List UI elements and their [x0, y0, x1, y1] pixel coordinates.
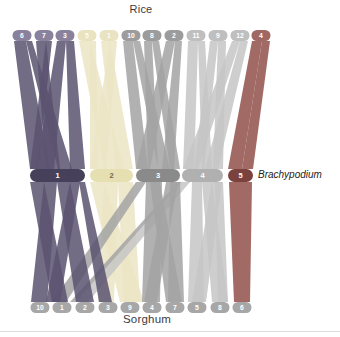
ribbon-bd3-lower: [168, 182, 184, 302]
sorghum-chr-number: 10: [36, 304, 44, 311]
rice-chr-number: 4: [259, 32, 263, 39]
rice-chr-number: 3: [63, 32, 67, 39]
page-edge-line: [0, 331, 340, 332]
sorghum-chr-number: 3: [106, 304, 110, 311]
rice-label: Rice: [0, 3, 282, 15]
synteny-figure: 6735110821191241234510123947586 Rice Bra…: [0, 0, 340, 337]
brachypodium-chr-number: 5: [238, 171, 242, 180]
ribbon-bd5-lower: [229, 182, 252, 302]
sorghum-chr-number: 7: [173, 304, 177, 311]
sorghum-chr-number: 1: [60, 304, 64, 311]
sorghum-chr-number: 4: [150, 304, 154, 311]
rice-chr-number: 2: [172, 32, 176, 39]
rice-chr-number: 9: [216, 32, 220, 39]
sorghum-label: Sorghum: [0, 313, 294, 325]
rice-chr-number: 7: [42, 32, 46, 39]
brachypodium-chr-number: 3: [156, 171, 160, 180]
sorghum-chr-number: 6: [240, 304, 244, 311]
rice-chr-number: 6: [20, 32, 24, 39]
sorghum-chr-number: 8: [218, 304, 222, 311]
brachypodium-chr-number: 2: [109, 171, 113, 180]
rice-chr-number: 8: [150, 32, 154, 39]
rice-chr-number: 11: [192, 32, 199, 39]
brachypodium-chr-number: 1: [55, 171, 59, 180]
sorghum-chr-number: 9: [128, 304, 132, 311]
rice-chr-number: 10: [127, 32, 135, 39]
brachypodium-label: Brachypodium: [258, 169, 322, 180]
sorghum-chr-number: 5: [195, 304, 199, 311]
rice-chr-number: 12: [236, 32, 244, 39]
rice-chr-number: 5: [85, 32, 89, 39]
ribbon-bd1-upper: [66, 41, 85, 169]
sorghum-chr-number: 2: [83, 304, 87, 311]
rice-chr-number: 1: [107, 32, 111, 39]
